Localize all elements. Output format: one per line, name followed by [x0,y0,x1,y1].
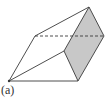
prism-diagram [0,0,110,99]
figure-label: (a) [1,83,14,97]
vertex-dot [8,80,10,82]
